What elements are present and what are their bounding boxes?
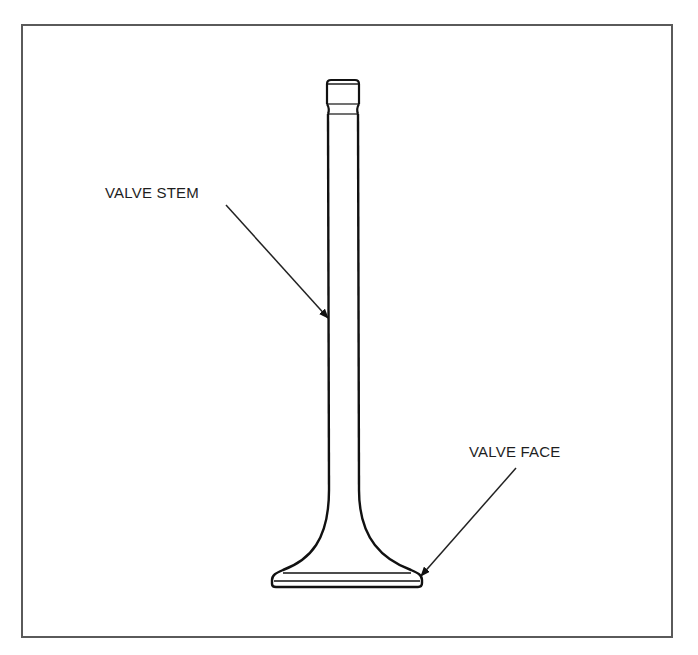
valve-face-label: VALVE FACE bbox=[469, 443, 560, 460]
valve-stem-label: VALVE STEM bbox=[105, 184, 199, 201]
face-leader-arrow bbox=[421, 468, 516, 576]
valve-stem bbox=[328, 114, 359, 490]
valve-tip bbox=[327, 80, 359, 114]
valve-head bbox=[272, 490, 422, 587]
valve-drawing bbox=[0, 0, 698, 655]
stem-leader-arrow bbox=[226, 205, 328, 318]
